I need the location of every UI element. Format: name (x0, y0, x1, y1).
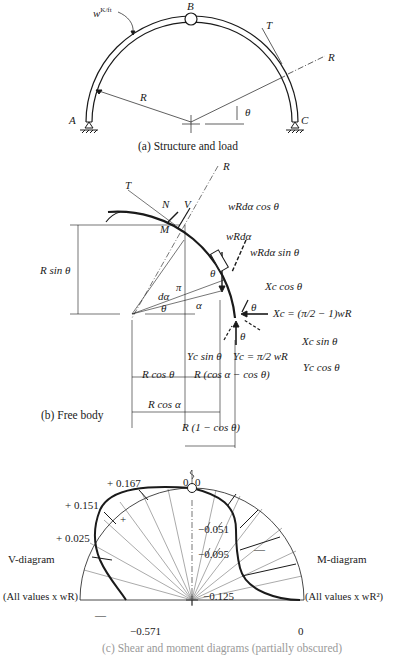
theta-element-label: θ (210, 268, 215, 279)
xc-cos-label: Xc cos θ (265, 281, 302, 292)
load-sin-label: wRdα sin θ (250, 247, 299, 258)
alpha-label: α (196, 300, 202, 311)
yc-eq-label: Yc = π/2 wR (233, 351, 288, 362)
height-dim-label: R sin θ (40, 265, 70, 276)
dim-r1cos: R (1 − cos θ) (182, 422, 240, 433)
pi-label: π (176, 283, 181, 294)
free-body-arc (108, 212, 235, 318)
support-c-label: C (301, 115, 308, 126)
load-label: wRdα (226, 231, 251, 242)
v-value-0167: + 0.167 (107, 478, 141, 489)
yc-sin-label: Yc sin θ (187, 351, 222, 362)
v-sign-positive: + (120, 514, 126, 525)
m-value-0051: −0.051 (198, 524, 229, 535)
m-diagram-units: (All values x wR²) (305, 592, 383, 603)
radial-label-b: R (223, 161, 230, 172)
m-value-0125: −0.125 (203, 591, 234, 602)
m-sign-negative: — (254, 544, 265, 555)
dim-rcos-alpha: R cos α (148, 399, 181, 410)
tangent-label-b: T (125, 180, 131, 191)
tangent-label-a: T (266, 20, 272, 31)
radial-label-a: R (328, 52, 335, 63)
shear-force-label: V (184, 199, 191, 210)
support-a-label: A (69, 115, 76, 126)
caption-c: (c) Shear and moment diagrams (partially… (102, 643, 342, 655)
load-cos-label: wRdα cos θ (228, 201, 279, 212)
v-diagram-title: V-diagram (8, 554, 55, 565)
v-value-0571: −0.571 (130, 626, 161, 637)
arch-structure (86, 16, 298, 122)
load-units: K/ft (100, 6, 111, 14)
v-top-zero: 0 (183, 477, 189, 488)
xc-eq-label: Xc = (π/2 − 1)wR (273, 308, 351, 319)
theta-xc-label: θ (251, 302, 256, 313)
v-value-0025: + 0.025 (56, 533, 90, 544)
theta-center-label: θ (161, 303, 166, 314)
hinge-b-label: B (187, 1, 194, 12)
theta-yc-label: θ (240, 331, 245, 342)
normal-force-label: N (162, 199, 169, 210)
m-end-zero: 0 (298, 626, 304, 637)
caption-a: (a) Structure and load (138, 141, 238, 153)
moment-label: M (160, 224, 169, 235)
dim-rcos-theta: R cos θ (142, 369, 174, 380)
m-value-0095: −0.095 (198, 549, 229, 560)
m-top-zero: 0 (195, 477, 201, 488)
hinge-b (185, 13, 197, 25)
radius-label-a: R (140, 92, 147, 103)
dim-rcos-diff: R (cos α − cos θ) (194, 369, 270, 380)
theta-label-a: θ (245, 107, 250, 118)
caption-b: (b) Free body (41, 410, 104, 422)
support-a (80, 122, 98, 133)
v-sign-negative: — (95, 610, 106, 621)
v-value-0151: + 0.151 (65, 500, 99, 511)
m-diagram-title: M-diagram (317, 554, 366, 565)
xc-sin-label: Xc sin θ (302, 336, 337, 347)
v-diagram-units: (All values x wR) (3, 592, 78, 603)
yc-cos-label: Yc cos θ (303, 362, 340, 373)
d-alpha-label: dα (158, 291, 169, 302)
load-w-label: wK/ft (93, 7, 112, 19)
